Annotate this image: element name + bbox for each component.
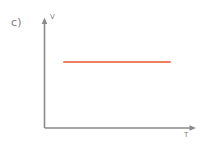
figure-panel: c) V T bbox=[0, 0, 205, 146]
panel-letter-label: c) bbox=[11, 17, 22, 28]
x-axis-arrowhead bbox=[190, 125, 197, 131]
y-axis-label: V bbox=[50, 14, 55, 21]
x-axis-label: T bbox=[184, 132, 188, 139]
plot-area bbox=[0, 0, 205, 146]
y-axis-arrowhead bbox=[42, 18, 48, 25]
